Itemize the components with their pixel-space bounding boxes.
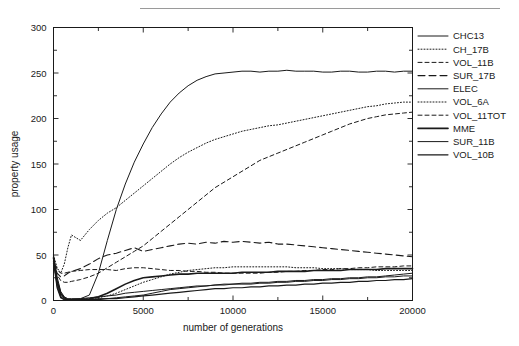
series-line-vol-11b	[54, 259, 413, 274]
y-axis-title: property usage	[9, 130, 20, 197]
legend-label-sur-17b: SUR_17B	[453, 70, 495, 81]
x-tick-label: 20000	[399, 305, 425, 316]
chart-figure: 05000100001500020000 050100150200250300 …	[0, 0, 519, 346]
line-chart: 05000100001500020000 050100150200250300 …	[0, 0, 519, 346]
y-tick-label: 150	[31, 159, 47, 170]
series-lines	[54, 70, 413, 300]
y-tick-label: 200	[31, 113, 47, 124]
series-line-vol-11tot	[54, 112, 413, 282]
x-tick-label: 0	[51, 305, 56, 316]
y-tick-label: 0	[41, 295, 46, 306]
y-axis-ticks: 050100150200250300	[31, 22, 413, 306]
legend-label-vol-10b: VOL_10B	[453, 149, 494, 160]
legend: CHC13CH_17BVOL_11BSUR_17BELECVOL_6AVOL_1…	[418, 30, 506, 160]
x-axis-title: number of generations	[183, 322, 283, 333]
series-line-sur-17b	[54, 241, 413, 276]
legend-label-vol-11tot: VOL_11TOT	[453, 110, 506, 121]
y-tick-label: 300	[31, 22, 47, 33]
x-tick-label: 5000	[133, 305, 154, 316]
y-tick-label: 250	[31, 68, 47, 79]
legend-label-mme: MME	[453, 123, 475, 134]
legend-label-vol-6a: VOL_6A	[453, 96, 490, 107]
axes	[54, 28, 413, 301]
series-line-chc13	[54, 70, 413, 299]
plot-frame	[54, 28, 413, 301]
x-tick-label: 15000	[310, 305, 336, 316]
legend-label-ch-17b: CH_17B	[453, 44, 489, 55]
legend-label-chc13: CHC13	[453, 30, 484, 41]
legend-label-vol-11b: VOL_11B	[453, 57, 494, 68]
x-tick-label: 10000	[220, 305, 246, 316]
series-line-ch-17b	[54, 102, 413, 273]
legend-label-elec: ELEC	[453, 83, 478, 94]
y-tick-label: 100	[31, 204, 47, 215]
y-tick-label: 50	[36, 250, 47, 261]
legend-label-sur-11b: SUR_11B	[453, 136, 495, 147]
